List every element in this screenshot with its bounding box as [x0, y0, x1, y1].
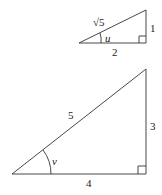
large-hypotenuse-label: 5: [68, 109, 74, 121]
diagram-canvas: √5 1 2 u 5 3 4 v: [0, 0, 162, 195]
large-right-angle-marker: [138, 166, 146, 174]
small-triangle-outline: [79, 10, 146, 43]
small-adjacent-label: 2: [112, 46, 118, 58]
large-angle-label: v: [52, 155, 57, 167]
small-opposite-label: 1: [150, 22, 156, 34]
large-opposite-label: 3: [150, 120, 156, 132]
small-hypotenuse-label: √5: [93, 16, 105, 28]
small-angle-label: u: [105, 32, 111, 44]
large-triangle-outline: [12, 69, 146, 174]
small-right-angle-marker: [139, 36, 146, 43]
large-triangle: 5 3 4 v: [12, 69, 156, 189]
small-angle-arc: [100, 33, 101, 43]
small-triangle: √5 1 2 u: [79, 10, 156, 58]
large-adjacent-label: 4: [86, 177, 92, 189]
large-angle-arc: [43, 150, 51, 174]
